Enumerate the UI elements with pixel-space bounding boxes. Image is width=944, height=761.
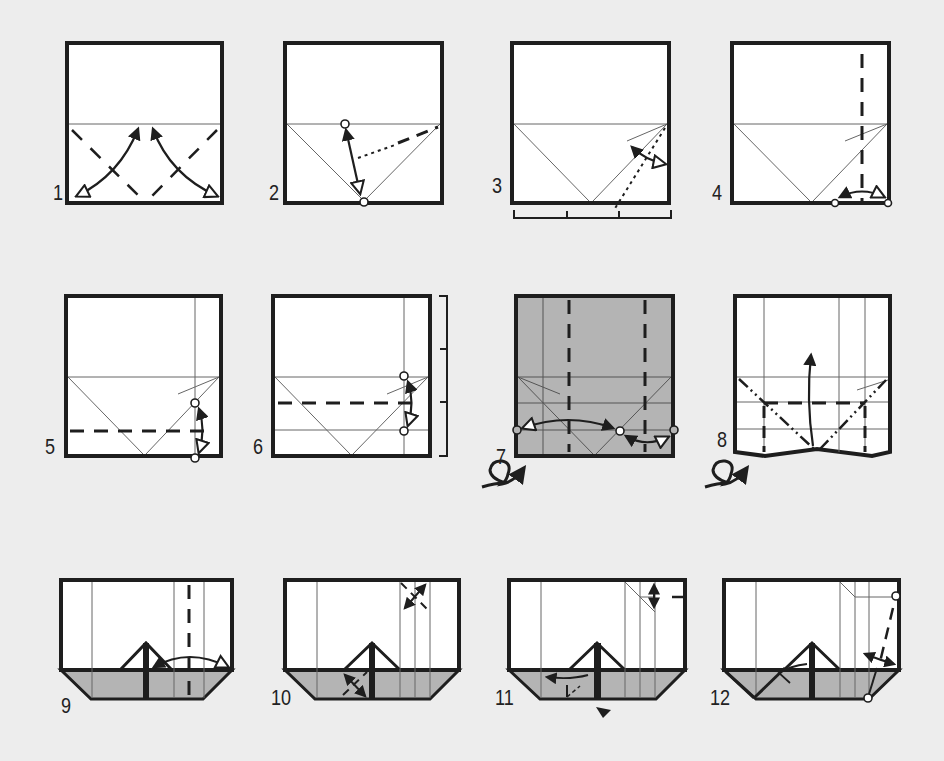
- step-8-diagram: [705, 296, 890, 487]
- step-number-11: 11: [495, 687, 514, 709]
- quarters-measure-bracket: [439, 296, 447, 456]
- step-4-diagram: [732, 43, 892, 207]
- step-3-diagram: [512, 43, 671, 218]
- step-number-4: 4: [712, 182, 722, 204]
- thirds-measure-bracket: [514, 210, 671, 218]
- step-number-5: 5: [45, 436, 55, 458]
- step-number-8: 8: [717, 429, 727, 451]
- step-number-10: 10: [271, 687, 291, 709]
- step-number-9: 9: [61, 695, 71, 717]
- step-11-diagram: [509, 580, 685, 718]
- step-number-7: 7: [496, 446, 506, 468]
- step-5-diagram: [66, 296, 221, 462]
- step-number-2: 2: [269, 182, 279, 204]
- turn-over-icon: [705, 461, 747, 487]
- origami-diagram: [0, 0, 944, 761]
- step-1-diagram: [67, 43, 222, 203]
- step-number-6: 6: [253, 436, 263, 458]
- step-number-12: 12: [710, 687, 730, 709]
- push-in-arrowhead: [596, 707, 611, 718]
- step-number-1: 1: [53, 182, 63, 204]
- step-12-diagram: [724, 580, 900, 702]
- step-number-3: 3: [492, 175, 502, 197]
- step-2-diagram: [285, 43, 442, 206]
- step-10-diagram: [285, 580, 459, 699]
- step-7-diagram: [482, 296, 678, 487]
- step-9-diagram: [61, 580, 232, 699]
- step-6-diagram: [273, 296, 447, 456]
